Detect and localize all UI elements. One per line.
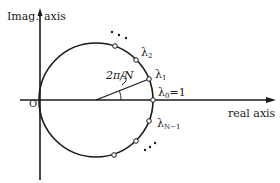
root-point-lambdaN2 (134, 139, 139, 144)
lambda1-label: λ1 (155, 69, 166, 82)
root-point-lambdaN3 (112, 153, 117, 158)
upper-ellipsis-dots (111, 31, 127, 39)
real-axis-arrow-icon (266, 97, 276, 103)
lambdaN1-symbol: λ (157, 117, 164, 130)
root-point-lambda3 (113, 44, 118, 49)
angle-label: 2π/N (106, 70, 134, 81)
lambda1-subscript: 1 (162, 74, 166, 82)
imaginary-axis-label: Imag. (7, 11, 39, 22)
root-point-lambda2 (134, 58, 139, 63)
lambda2-subscript: 2 (148, 52, 152, 60)
lambda0-value: =1 (169, 86, 185, 99)
imaginary-axis-label-suffix: axis (44, 11, 66, 22)
roots-of-unity-diagram (0, 0, 280, 183)
root-point-lambda0 (151, 98, 156, 103)
lambdaN1-label: λN−1 (157, 118, 180, 131)
root-point-lambda1 (147, 77, 152, 82)
lambdaN1-subscript: N−1 (164, 123, 180, 131)
real-axis-label: real axis (228, 108, 275, 119)
lambda0-symbol: λ (158, 86, 165, 99)
angle-arc (120, 91, 122, 100)
lower-ellipsis-dots (144, 142, 156, 151)
lambda2-symbol: λ (141, 46, 148, 59)
origin-label: O (29, 99, 37, 109)
root-point-lambdaN1 (147, 119, 152, 124)
lambda2-label: λ2 (141, 47, 152, 60)
radius-line (96, 79, 149, 100)
lambda1-symbol: λ (155, 68, 162, 81)
lambda0-label: λ0=1 (158, 87, 186, 100)
